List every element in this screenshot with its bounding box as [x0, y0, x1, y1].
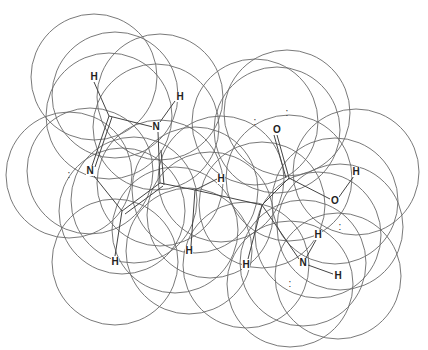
lone-pair-marker: :: [286, 107, 289, 118]
atom-label-h: H: [314, 229, 321, 240]
lone-pair-marker: :: [254, 116, 257, 127]
bond-line: [125, 186, 163, 214]
atom-label-h: H: [242, 259, 249, 270]
bond-line: [160, 101, 175, 122]
molecule-canvas: ::::: HHNNHHHOOHHNHH: [0, 0, 428, 350]
atom-label-n: N: [299, 257, 306, 268]
bond-line: [115, 211, 122, 256]
bond-line: [195, 190, 262, 205]
atom-label-h: H: [111, 256, 118, 267]
bond-line: [274, 135, 286, 178]
atom-label-h: H: [352, 166, 359, 177]
bond-line: [262, 178, 289, 205]
atom-label-o: O: [273, 124, 281, 135]
lone-pair-marker: :: [68, 169, 71, 180]
bond-line: [248, 205, 262, 259]
atom-label-h: H: [90, 71, 97, 82]
lone-pair-marker: :: [289, 278, 292, 289]
atom-label-h: H: [334, 270, 341, 281]
atom-label-n: N: [152, 121, 159, 132]
atom-label-h: H: [185, 245, 192, 256]
atom-label-h: H: [176, 91, 183, 102]
atom-label-o: O: [331, 195, 339, 206]
molecule-diagram: ::::: HHNNHHHOOHHNHH: [0, 0, 428, 350]
bond-line: [195, 179, 217, 190]
bond-line: [308, 265, 333, 274]
atom-label-n: N: [86, 165, 93, 176]
atom-radius-circle: [97, 34, 223, 160]
atom-radius-circle: [147, 152, 273, 278]
atom-radius-circles: [6, 14, 419, 347]
atom-label-h: H: [217, 173, 224, 184]
lone-pair-marker: :: [339, 221, 342, 232]
atom-radius-circle: [71, 137, 197, 263]
